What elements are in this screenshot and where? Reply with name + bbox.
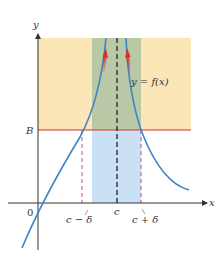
- origin-label: 0: [27, 207, 33, 218]
- c-minus-delta-label: c − δ: [66, 214, 92, 225]
- infinite-limit-diagram: y x 0 B c c − δ c + δ y = f(x): [0, 0, 223, 258]
- y-axis-label: y: [32, 19, 39, 30]
- curve-label: y = f(x): [130, 76, 169, 87]
- x-axis-label: x: [209, 197, 215, 208]
- c-plus-delta-label: c + δ: [132, 214, 158, 225]
- c-label: c: [114, 206, 120, 217]
- B-label: B: [25, 125, 33, 136]
